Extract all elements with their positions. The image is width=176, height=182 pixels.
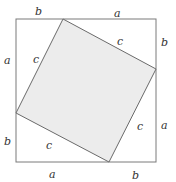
- label-hyp-left-c: c: [33, 53, 39, 66]
- label-hyp-right-c: c: [137, 120, 143, 133]
- pythagorean-proof-diagram: b a b a b a b a c c c c: [0, 0, 176, 182]
- label-bottom-right-b: b: [132, 169, 139, 182]
- label-hyp-bottom-c: c: [46, 139, 52, 152]
- label-right-top-b: b: [161, 36, 168, 49]
- diagram-svg: b a b a b a b a c c c c: [0, 0, 176, 182]
- label-hyp-top-c: c: [117, 35, 123, 48]
- label-top-left-b: b: [35, 5, 42, 18]
- inner-tilted-square: [16, 19, 156, 162]
- label-top-right-a: a: [114, 7, 121, 20]
- label-right-bottom-a: a: [161, 119, 168, 132]
- label-left-bottom-b: b: [4, 135, 11, 148]
- label-bottom-left-a: a: [49, 168, 56, 181]
- label-left-top-a: a: [4, 54, 11, 67]
